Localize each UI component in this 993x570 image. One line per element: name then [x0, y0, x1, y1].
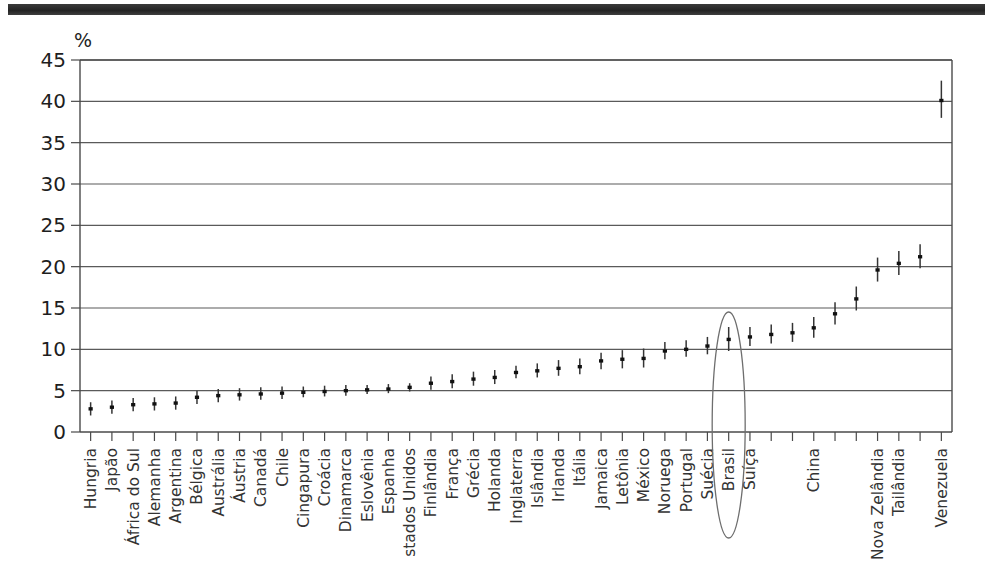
y-axis-tick-label: 10: [41, 337, 66, 361]
x-axis-category-label: China: [805, 448, 823, 492]
x-axis-category-label: Argentina: [167, 448, 185, 524]
x-axis-category-label: Japão: [103, 448, 121, 492]
range-plot-svg: %051015202530354045HungriaJapãoÁfrica do…: [0, 0, 993, 570]
x-axis-category-label: França: [444, 448, 462, 500]
y-axis-tick-label: 20: [41, 255, 66, 279]
x-axis-category-label: Venezuela: [933, 448, 951, 528]
x-axis-category-label: Itália: [571, 448, 589, 486]
x-axis-category-label: Letônia: [614, 448, 632, 505]
x-axis-category-label: Grécia: [465, 448, 483, 498]
x-axis-category-label: África do Sul: [124, 448, 143, 545]
y-axis-tick-label: 0: [53, 420, 66, 444]
x-axis-category-label: Holanda: [486, 448, 504, 512]
x-axis-category-label: Inglaterra: [508, 448, 526, 524]
x-axis-category-label: Austrália: [210, 448, 228, 517]
x-axis-category-label: Finlândia: [422, 448, 440, 517]
x-axis-category-label: Noruega: [656, 448, 674, 514]
x-axis-category-label: Alemanha: [146, 448, 164, 526]
x-axis-category-label: Portugal: [678, 448, 696, 512]
y-axis-tick-label: 5: [53, 379, 66, 403]
y-axis-tick-label: 30: [41, 172, 66, 196]
x-axis-category-label: Dinamarca: [337, 448, 355, 532]
chart-container: %051015202530354045HungriaJapãoÁfrica do…: [0, 0, 993, 570]
x-axis-category-label: Brasil: [720, 448, 738, 491]
x-axis-category-label: stados Unidos: [401, 448, 419, 557]
x-axis-category-label: Áustria: [230, 448, 249, 503]
y-axis-tick-label: 15: [41, 296, 66, 320]
y-axis-tick-label: 40: [41, 89, 66, 113]
x-axis-category-label: Islândia: [529, 448, 547, 508]
x-axis-category-label: Tailândia: [890, 448, 908, 517]
y-axis-tick-label: 25: [41, 213, 66, 237]
x-axis-category-label: Croácia: [316, 448, 334, 506]
x-axis-category-label: Canadá: [252, 448, 270, 507]
x-axis-category-label: México: [635, 448, 653, 502]
x-axis-category-label: Irlanda: [550, 448, 568, 502]
x-axis-category-label: Bélgica: [188, 448, 206, 505]
y-axis-tick-label: 35: [41, 131, 66, 155]
axis-unit-label: %: [74, 29, 92, 51]
x-axis-category-label: Espanha: [380, 448, 398, 514]
x-axis-category-label: Chile: [274, 448, 292, 487]
x-axis-category-label: Hungria: [82, 448, 100, 509]
x-axis-category-label: Jamaica: [593, 448, 611, 510]
x-axis-category-label: Eslovênia: [359, 448, 377, 522]
x-axis-category-label: Cingapura: [295, 448, 313, 528]
x-axis-category-label: Nova Zelândia: [869, 448, 887, 560]
y-axis-tick-label: 45: [41, 48, 66, 72]
